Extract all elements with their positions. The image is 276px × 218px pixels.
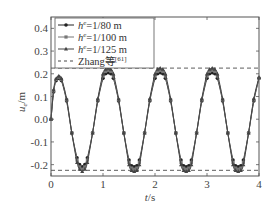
x-tick-label: 3 xyxy=(204,178,210,190)
series-3 xyxy=(49,66,261,173)
x-axis-label: t/s xyxy=(145,191,155,203)
x-tick-label: 1 xyxy=(100,178,106,190)
x-tick-label: 2 xyxy=(152,178,158,190)
y-tick-label: 0.0 xyxy=(34,113,48,125)
y-tick-labels: -0.2-0.10.00.10.20.30.4 xyxy=(31,22,49,170)
x-tick-label: 4 xyxy=(256,178,262,190)
series-1 xyxy=(49,71,261,169)
legend: he=1/80 mhe=1/100 mhe=1/125 mZhang等[61] xyxy=(55,18,154,68)
y-axis-label: ue/m xyxy=(15,91,29,112)
zhang-reference-lines xyxy=(51,68,259,170)
chart: 01234 -0.2-0.10.00.10.20.30.4 t/s ue/m h… xyxy=(0,0,276,218)
x-tick-label: 0 xyxy=(48,178,54,190)
y-tick-label: 0.4 xyxy=(34,22,48,34)
x-tick-labels: 01234 xyxy=(48,178,262,190)
y-tick-label: 0.2 xyxy=(34,68,48,80)
series-layer xyxy=(49,66,261,173)
y-tick-label: -0.2 xyxy=(31,159,48,171)
y-tick-label: -0.1 xyxy=(31,136,48,148)
y-tick-label: 0.3 xyxy=(34,45,48,57)
series-2 xyxy=(49,69,260,171)
y-tick-label: 0.1 xyxy=(34,91,48,103)
